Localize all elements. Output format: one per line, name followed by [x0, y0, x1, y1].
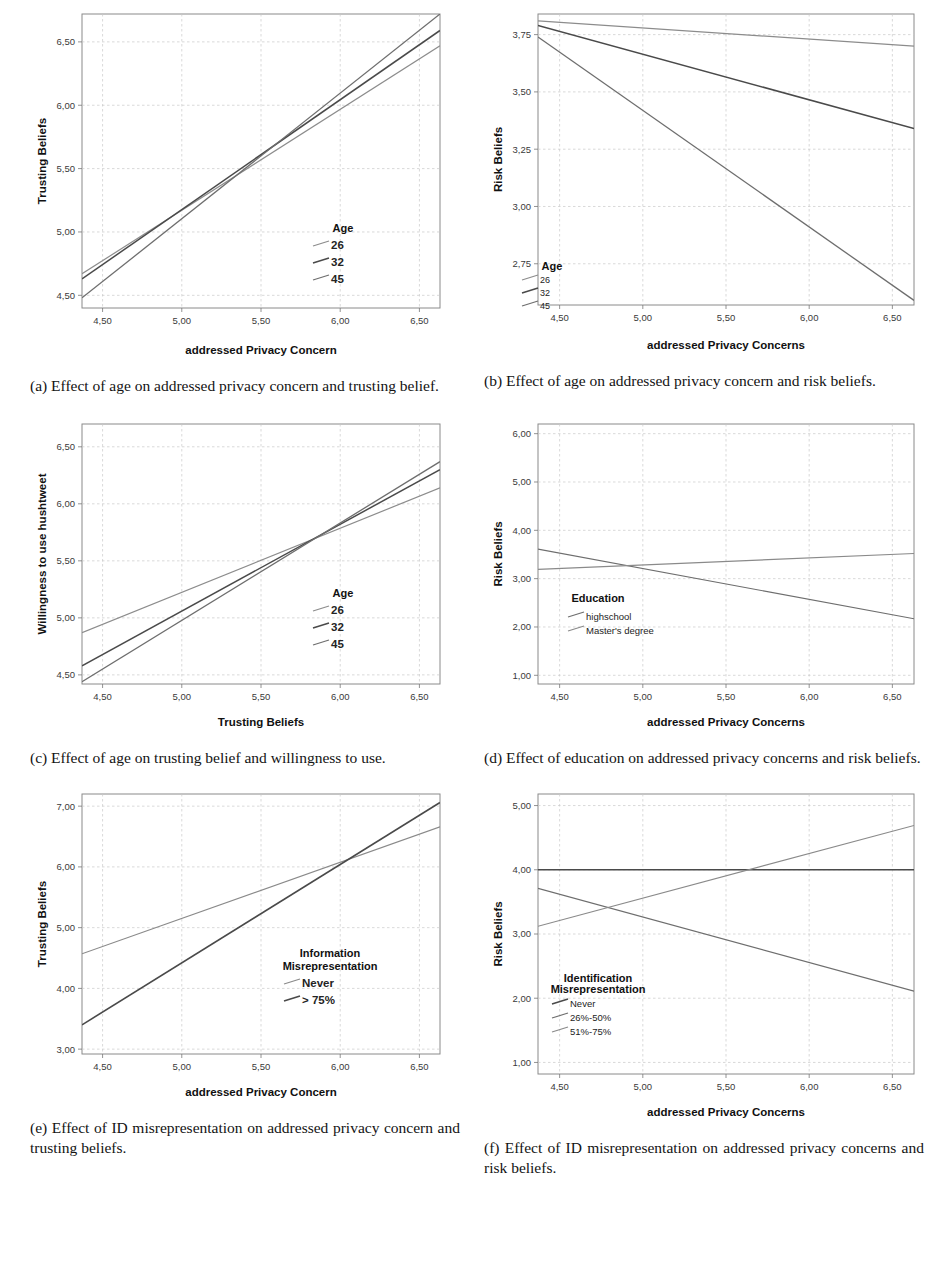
svg-text:26: 26 — [331, 239, 344, 251]
svg-text:Risk Beliefs: Risk Beliefs — [492, 902, 504, 967]
svg-text:4,50: 4,50 — [550, 1081, 569, 1092]
subfigure-b: 2,753,003,253,503,754,505,005,506,006,50… — [470, 0, 949, 396]
svg-text:6,00: 6,00 — [513, 428, 532, 439]
svg-text:Risk Beliefs: Risk Beliefs — [492, 127, 504, 192]
svg-text:Trusting Beliefs: Trusting Beliefs — [36, 881, 48, 967]
svg-text:Age: Age — [542, 260, 563, 272]
subfigure-c: 4,505,005,506,006,504,505,005,506,006,50… — [0, 412, 470, 768]
svg-text:5,50: 5,50 — [57, 163, 76, 174]
svg-text:6,50: 6,50 — [410, 315, 429, 326]
caption-f: (f) Effect of ID misrepresentation on ad… — [484, 1138, 924, 1178]
svg-text:6,00: 6,00 — [800, 312, 819, 323]
svg-text:26%-50%: 26%-50% — [570, 1012, 612, 1023]
svg-text:26: 26 — [540, 275, 550, 285]
svg-text:4,00: 4,00 — [57, 983, 76, 994]
figure-row-3: 3,004,005,006,007,004,505,005,506,006,50… — [0, 782, 949, 1178]
svg-text:Education: Education — [571, 592, 624, 604]
svg-text:4,50: 4,50 — [57, 290, 76, 301]
svg-text:5,00: 5,00 — [634, 691, 653, 702]
svg-text:6,00: 6,00 — [57, 862, 76, 873]
svg-text:4,00: 4,00 — [513, 525, 532, 536]
svg-text:addressed Privacy Concerns: addressed Privacy Concerns — [647, 1106, 805, 1118]
caption-c: (c) Effect of age on trusting belief and… — [30, 748, 460, 768]
svg-text:Risk Beliefs: Risk Beliefs — [492, 522, 504, 587]
svg-text:Misrepresentation: Misrepresentation — [551, 983, 646, 995]
svg-text:Age: Age — [333, 222, 354, 234]
subfigure-d: 1,002,003,004,005,006,004,505,005,506,00… — [470, 412, 949, 768]
svg-text:3,00: 3,00 — [513, 929, 532, 940]
svg-text:45: 45 — [540, 301, 550, 311]
svg-text:2,00: 2,00 — [513, 993, 532, 1004]
svg-text:5,00: 5,00 — [634, 1081, 653, 1092]
svg-text:5,50: 5,50 — [57, 555, 76, 566]
svg-text:32: 32 — [331, 621, 344, 633]
svg-text:> 75%: > 75% — [302, 994, 335, 1006]
svg-text:4,00: 4,00 — [513, 864, 532, 875]
svg-text:Age: Age — [333, 587, 354, 599]
svg-text:5,00: 5,00 — [513, 477, 532, 488]
caption-e: (e) Effect of ID misrepresentation on ad… — [30, 1118, 460, 1158]
svg-text:Information: Information — [300, 947, 361, 959]
svg-text:3,00: 3,00 — [513, 573, 532, 584]
svg-text:6,50: 6,50 — [883, 691, 902, 702]
subfigure-a: 4,505,005,506,006,504,505,005,506,006,50… — [0, 0, 470, 396]
svg-text:5,00: 5,00 — [173, 1061, 192, 1072]
svg-text:3,50: 3,50 — [513, 86, 532, 97]
svg-text:Misrepresentation: Misrepresentation — [283, 960, 378, 972]
svg-text:addressed Privacy Concerns: addressed Privacy Concerns — [647, 716, 805, 728]
svg-text:1,00: 1,00 — [513, 670, 532, 681]
figure-row-1: 4,505,005,506,006,504,505,005,506,006,50… — [0, 0, 949, 396]
svg-text:6,50: 6,50 — [57, 441, 76, 452]
chart-e-plot: 3,004,005,006,007,004,505,005,506,006,50… — [20, 782, 470, 1112]
svg-text:6,00: 6,00 — [57, 100, 76, 111]
svg-text:Willingness to use hushtweet: Willingness to use hushtweet — [36, 474, 48, 635]
svg-text:6,00: 6,00 — [331, 691, 350, 702]
svg-text:6,00: 6,00 — [331, 1061, 350, 1072]
svg-text:4,50: 4,50 — [550, 312, 569, 323]
svg-text:6,50: 6,50 — [883, 1081, 902, 1092]
svg-text:6,50: 6,50 — [410, 691, 429, 702]
svg-text:51%-75%: 51%-75% — [570, 1026, 612, 1037]
svg-text:32: 32 — [331, 256, 344, 268]
svg-text:5,50: 5,50 — [717, 691, 736, 702]
subfigure-f: 1,002,003,004,005,004,505,005,506,006,50… — [470, 782, 949, 1178]
svg-text:32: 32 — [540, 288, 550, 298]
svg-text:5,50: 5,50 — [252, 315, 271, 326]
figure-row-2: 4,505,005,506,006,504,505,005,506,006,50… — [0, 412, 949, 768]
svg-text:Never: Never — [302, 977, 334, 989]
caption-d: (d) Effect of education on addressed pri… — [484, 748, 924, 768]
svg-text:5,00: 5,00 — [57, 612, 76, 623]
svg-text:45: 45 — [331, 638, 344, 650]
svg-text:Never: Never — [570, 998, 595, 1009]
svg-text:4,50: 4,50 — [93, 1061, 112, 1072]
svg-text:4,50: 4,50 — [57, 669, 76, 680]
svg-text:6,00: 6,00 — [57, 498, 76, 509]
svg-text:6,50: 6,50 — [410, 1061, 429, 1072]
svg-text:addressed Privacy Concerns: addressed Privacy Concerns — [647, 339, 805, 351]
svg-text:6,00: 6,00 — [800, 1081, 819, 1092]
svg-text:4,50: 4,50 — [550, 691, 569, 702]
svg-text:addressed Privacy Concern: addressed Privacy Concern — [185, 1086, 337, 1098]
subfigure-e: 3,004,005,006,007,004,505,005,506,006,50… — [0, 782, 470, 1178]
caption-a: (a) Effect of age on addressed privacy c… — [30, 376, 460, 396]
chart-f-plot: 1,002,003,004,005,004,505,005,506,006,50… — [480, 782, 949, 1132]
svg-text:Master's degree: Master's degree — [586, 625, 654, 636]
svg-text:4,50: 4,50 — [93, 691, 112, 702]
svg-text:3,00: 3,00 — [57, 1044, 76, 1055]
svg-text:5,00: 5,00 — [57, 922, 76, 933]
svg-text:3,75: 3,75 — [513, 29, 532, 40]
svg-text:2,00: 2,00 — [513, 622, 532, 633]
chart-d-plot: 1,002,003,004,005,006,004,505,005,506,00… — [480, 412, 949, 742]
svg-text:6,00: 6,00 — [331, 315, 350, 326]
svg-text:5,00: 5,00 — [173, 691, 192, 702]
caption-b: (b) Effect of age on addressed privacy c… — [484, 371, 924, 391]
svg-text:addressed Privacy Concern: addressed Privacy Concern — [185, 344, 337, 356]
chart-c-plot: 4,505,005,506,006,504,505,005,506,006,50… — [20, 412, 470, 742]
svg-text:highschool: highschool — [586, 611, 631, 622]
svg-text:5,50: 5,50 — [252, 1061, 271, 1072]
svg-text:5,50: 5,50 — [252, 691, 271, 702]
svg-text:5,00: 5,00 — [634, 312, 653, 323]
svg-text:2,75: 2,75 — [513, 258, 532, 269]
svg-text:4,50: 4,50 — [93, 315, 112, 326]
figure-page: 4,505,005,506,006,504,505,005,506,006,50… — [0, 0, 949, 1273]
